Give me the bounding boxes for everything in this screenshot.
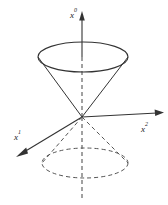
axis-x0-arrowhead: [79, 11, 85, 21]
axis-label-x2: x2: [140, 121, 148, 135]
axis-label-x1-exponent: 1: [18, 129, 21, 135]
axis-x1-line: [24, 117, 82, 152]
axis-x2-line: [82, 113, 157, 117]
lower-cone-slant-right: [82, 117, 128, 163]
lower-light-cone: [42, 117, 128, 178]
upper-light-cone: [38, 42, 128, 117]
axis-x1-arrowhead: [16, 148, 28, 157]
upper-cone-rim-ellipse: [38, 42, 128, 72]
axis-x2-arrowhead: [155, 110, 164, 116]
axis-label-x0-exponent: 0: [74, 7, 77, 13]
lower-cone-rim-ellipse: [42, 148, 128, 178]
axis-x0: [79, 11, 85, 201]
upper-cone-slant-left: [38, 57, 82, 117]
light-cone-canvas: x0 x1 x2: [0, 0, 168, 205]
upper-cone-slant-right: [82, 57, 128, 117]
light-cone-figure: x0 x1 x2: [0, 0, 168, 205]
axis-x1: [16, 117, 82, 157]
axis-x2: [82, 110, 164, 117]
axis-label-x2-exponent: 2: [145, 121, 148, 127]
lower-cone-slant-left: [42, 117, 82, 163]
axis-label-x0: x0: [69, 7, 77, 21]
axis-label-x1: x1: [13, 129, 21, 143]
